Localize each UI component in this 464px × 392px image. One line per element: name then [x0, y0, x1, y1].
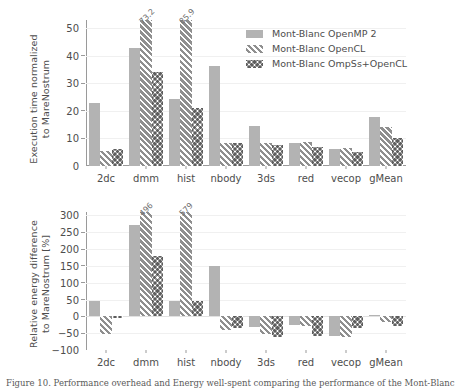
bar-group	[209, 212, 244, 350]
bar-group	[209, 20, 244, 166]
bar	[340, 316, 351, 336]
x-axis-tick-label-red: red	[298, 173, 314, 184]
x-axis-tick-mark	[226, 350, 227, 353]
x-axis-tick-mark	[306, 350, 307, 353]
bar	[312, 147, 323, 166]
bar	[392, 138, 403, 166]
bar	[369, 117, 380, 166]
y-axis-tick-label: 50	[66, 294, 86, 305]
x-axis-tick-mark	[346, 350, 347, 353]
x-axis-tick-label-3ds: 3ds	[257, 357, 275, 368]
bar	[329, 149, 340, 166]
bar	[180, 212, 191, 316]
x-axis-tick-label-nbody: nbody	[210, 357, 241, 368]
bar	[129, 225, 140, 316]
y-axis-tick-label: 0	[73, 311, 86, 322]
bar	[260, 143, 271, 166]
legend-swatch-icon	[246, 60, 263, 68]
y-axis-tick-label: 30	[66, 78, 86, 89]
bar	[129, 48, 140, 166]
y-axis-tick-label: 100	[60, 277, 86, 288]
bar-group	[89, 212, 124, 350]
x-axis-tick-mark	[106, 350, 107, 353]
x-axis-tick-label-2dc: 2dc	[97, 173, 115, 184]
y-axis-tick-mark	[81, 249, 85, 250]
legend-item: Mont-Blanc OpenMP 2	[246, 26, 407, 41]
y-axis-tick-mark	[81, 232, 85, 233]
bar	[329, 316, 340, 336]
bar	[289, 316, 300, 325]
x-axis-tick-label-hist: hist	[177, 173, 195, 184]
legend-item: Mont-Blanc OpenCL	[246, 41, 407, 56]
y-axis-tick-label: 200	[60, 244, 86, 255]
y-axis-tick-mark	[81, 316, 85, 317]
bar	[140, 20, 151, 166]
bar	[352, 316, 363, 328]
x-axis-tick-mark	[266, 166, 267, 169]
bar-group	[169, 212, 204, 350]
bar	[352, 152, 363, 166]
bar	[312, 316, 323, 336]
x-axis-tick-mark	[306, 166, 307, 169]
y-axis-tick-label: 250	[60, 227, 86, 238]
y-axis-tick-mark	[81, 83, 85, 84]
bar	[140, 212, 151, 316]
bar-group	[89, 20, 124, 166]
bar	[169, 301, 180, 317]
bar	[192, 301, 203, 316]
bar	[169, 99, 180, 166]
x-axis-tick-mark	[346, 166, 347, 169]
legend-swatch-icon	[246, 45, 263, 53]
figure-root: Execution time normalized to MareNostrum…	[0, 0, 464, 392]
bar	[220, 143, 231, 166]
bar	[249, 126, 260, 166]
bar	[300, 316, 311, 325]
bar	[209, 66, 220, 166]
y-axis-tick-mark	[81, 55, 85, 56]
y-axis-line	[86, 20, 87, 166]
y-axis-tick-label: 20	[66, 105, 86, 116]
legend-item-label: Mont-Blanc OmpSs+OpenCL	[272, 58, 407, 69]
y-axis-tick-mark	[81, 138, 85, 139]
x-axis-tick-label-2dc: 2dc	[97, 357, 115, 368]
bar	[380, 127, 391, 166]
bar	[220, 316, 231, 329]
y-axis-label-relative-energy: Relative energy difference to MareNostru…	[28, 214, 52, 354]
bar	[89, 301, 100, 316]
legend-swatch-icon	[246, 30, 263, 38]
bar	[180, 20, 191, 166]
bar	[249, 316, 260, 327]
y-axis-tick-mark	[81, 282, 85, 283]
y-axis-tick-label: −100	[52, 345, 86, 356]
bar-group	[249, 212, 284, 350]
bar	[192, 108, 203, 166]
y-axis-tick-mark	[81, 265, 85, 266]
x-axis-tick-mark	[186, 166, 187, 169]
plot-area-relative-energy: −100−500501001502002503002dcdmmhistnbody…	[86, 212, 406, 350]
bar-group	[289, 212, 324, 350]
x-axis-tick-label-gMean: gMean	[369, 173, 403, 184]
x-axis-tick-label-vecop: vecop	[331, 357, 361, 368]
legend-item: Mont-Blanc OmpSs+OpenCL	[246, 56, 407, 71]
x-axis-tick-label-hist: hist	[177, 357, 195, 368]
x-axis-tick-label-3ds: 3ds	[257, 173, 275, 184]
x-axis-tick-label-dmm: dmm	[133, 173, 159, 184]
y-axis-label-execution-time: Execution time normalized to MareNostrum	[28, 29, 52, 169]
y-axis-tick-label: −50	[58, 328, 86, 339]
bar-group	[129, 20, 164, 166]
legend-item-label: Mont-Blanc OpenMP 2	[272, 28, 376, 39]
bar	[340, 148, 351, 166]
x-axis-tick-mark	[386, 350, 387, 353]
y-axis-tick-mark	[81, 333, 85, 334]
x-axis-tick-label-gMean: gMean	[369, 357, 403, 368]
bar	[369, 315, 380, 317]
bar	[272, 145, 283, 166]
x-axis-tick-label-nbody: nbody	[210, 173, 241, 184]
y-axis-tick-label: 10	[66, 133, 86, 144]
y-axis-tick-label: 300	[60, 210, 86, 221]
bar	[209, 266, 220, 317]
bar	[100, 316, 111, 334]
bar	[272, 316, 283, 336]
x-axis-tick-mark	[386, 166, 387, 169]
legend-execution-time: Mont-Blanc OpenMP 2Mont-Blanc OpenCLMont…	[246, 26, 407, 71]
